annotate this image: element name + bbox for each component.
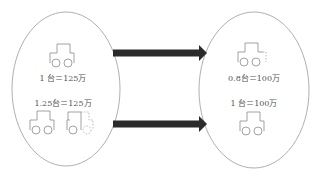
quarter-car-icon — [67, 112, 81, 134]
car-icon — [50, 44, 74, 67]
missing-car-part-dotted-icon — [81, 112, 93, 134]
arrow-top — [113, 45, 207, 61]
left-group-ellipse — [12, 12, 120, 166]
right-bottom-label: 1 台＝100万 — [231, 99, 278, 109]
diagram-canvas — [0, 0, 317, 178]
arrow-bottom — [113, 116, 207, 132]
car-icon — [240, 112, 264, 135]
missing-car-part-dotted-icon — [263, 52, 266, 62]
car-icon — [30, 111, 54, 134]
right-top-label: 0.8台＝100万 — [228, 74, 280, 84]
left-bottom-label: 1.25台＝125万 — [34, 99, 91, 109]
partial-car-icon — [238, 43, 263, 66]
left-top-label: 1 台＝125万 — [40, 74, 87, 84]
right-group-ellipse — [199, 12, 309, 168]
